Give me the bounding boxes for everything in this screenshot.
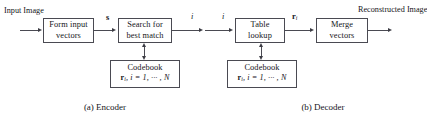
encoder-codebook-box: Codebook ri, i = 1, ··· , N — [110, 60, 180, 88]
encoder-s-arrow-line — [94, 30, 113, 31]
decoder-codeword-arrow-line — [285, 30, 311, 31]
encoder-input-arrow-head — [38, 28, 42, 32]
encoder-s-arrow-head — [112, 28, 116, 32]
encoder-input-image-label: Input Image — [4, 6, 42, 16]
decoder-output-arrow-line — [368, 30, 389, 31]
encoder-input-image-line1: Input — [4, 6, 21, 15]
decoder-codebook-title: Codebook — [244, 63, 279, 73]
decoder-codebook-link-arrow-up — [259, 43, 263, 47]
encoder-search-best-match-box: Search for best match — [118, 18, 172, 43]
encoder-block1-line2: vectors — [56, 31, 81, 41]
decoder-output-line1: Reconstructed — [358, 5, 405, 14]
decoder-merge-vectors-box: Merge vectors — [316, 18, 368, 43]
encoder-output-arrow-head — [199, 28, 203, 32]
decoder-codeword-arrow-head — [310, 28, 314, 32]
decoder-index-label: i — [222, 12, 224, 21]
decoder-output-arrow-head — [388, 28, 392, 32]
decoder-block1-line2: lookup — [248, 31, 272, 41]
encoder-input-arrow-line — [20, 30, 39, 31]
decoder-input-arrow-line — [205, 30, 230, 31]
encoder-input-image-line2: Image — [23, 6, 43, 15]
encoder-codebook-link-arrow-up — [142, 43, 146, 47]
decoder-output-line2: Image — [407, 5, 427, 14]
encoder-caption: (a) Encoder — [40, 102, 170, 112]
decoder-codebook-formula: ri, i = 1, ··· , N — [238, 73, 287, 84]
decoder-table-lookup-box: Table lookup — [235, 18, 285, 43]
encoder-form-input-vectors-box: Form input vectors — [43, 18, 94, 43]
encoder-index-label: i — [191, 12, 193, 21]
encoder-signal-label: s — [106, 13, 109, 22]
vector-quantization-figure: Input Image Form input vectors s Search … — [0, 0, 427, 123]
decoder-caption: (b) Decoder — [258, 102, 388, 112]
decoder-block2-line2: vectors — [330, 31, 355, 41]
decoder-block2-line1: Merge — [331, 20, 353, 30]
decoder-input-arrow-head — [229, 28, 233, 32]
decoder-block1-line1: Table — [251, 20, 270, 30]
decoder-codebook-box: Codebook ri, i = 1, ··· , N — [227, 60, 297, 88]
encoder-block2-line2: best match — [126, 31, 163, 41]
encoder-codebook-title: Codebook — [127, 63, 162, 73]
encoder-block1-line1: Form input — [49, 20, 87, 30]
encoder-block2-line1: Search for — [127, 20, 163, 30]
decoder-codeword-label: ri — [292, 12, 297, 21]
encoder-codebook-formula: ri, i = 1, ··· , N — [121, 73, 170, 84]
decoder-output-image-label: Reconstructed Image — [358, 5, 424, 15]
encoder-output-arrow-line — [172, 30, 200, 31]
